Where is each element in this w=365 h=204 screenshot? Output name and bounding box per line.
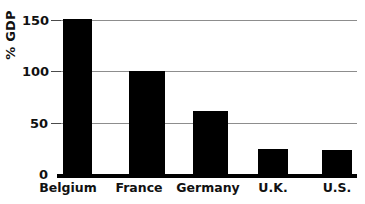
- y-tick-50: 50: [22, 118, 48, 130]
- x-axis-baseline: [57, 174, 357, 178]
- y-tick-100: 100: [22, 66, 48, 78]
- x-tick-label-germany: Germany: [172, 180, 244, 196]
- y-axis-title: % GDP: [0, 0, 22, 80]
- bar-us: [322, 150, 352, 175]
- x-tick-label-belgium: Belgium: [38, 180, 98, 196]
- bar-germany: [193, 111, 228, 175]
- bar-chart: % GDP 150 100 50 0 Belgium France German…: [0, 0, 365, 204]
- x-tick-label-us: U.S.: [307, 180, 365, 196]
- y-tick-label-50: 50: [22, 118, 48, 130]
- gridline-150: [61, 20, 357, 21]
- y-tick-150: 150: [22, 15, 48, 27]
- plot-area: [61, 12, 357, 175]
- x-tick-label-uk: U.K.: [243, 180, 303, 196]
- y-tick-label-150: 150: [22, 15, 48, 27]
- y-tick-label-100: 100: [22, 66, 48, 78]
- y-tick-mark-50: [51, 123, 61, 124]
- bar-uk: [258, 149, 288, 175]
- gridline-100: [61, 71, 357, 72]
- y-tick-mark-100: [51, 71, 61, 72]
- bar-belgium: [63, 19, 92, 175]
- x-tick-label-france: France: [109, 180, 169, 196]
- y-tick-mark-150: [51, 20, 61, 21]
- bar-france: [129, 71, 165, 175]
